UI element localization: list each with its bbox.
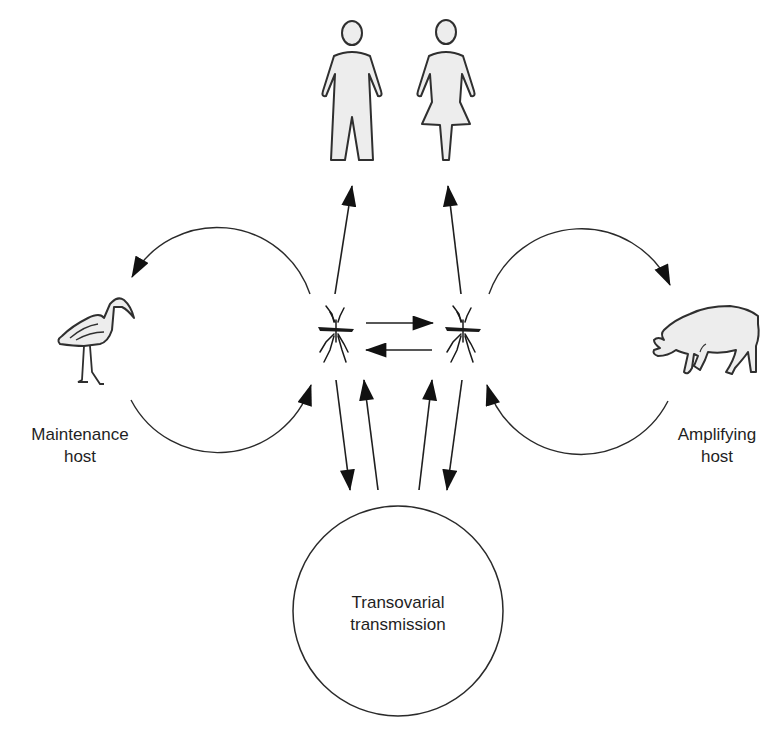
pig-icon (654, 306, 759, 374)
arrow-vector-left-to-transovarial (336, 380, 350, 490)
transovarial-label-line2: transmission (350, 615, 445, 634)
maintenance-host-label-line2: host (64, 447, 96, 466)
transovarial-label-line1: Transovarial (352, 593, 445, 612)
wading-bird-icon (58, 298, 134, 384)
amplifying-host-label-line2: host (701, 447, 733, 466)
arrow-vector-to-human-male (335, 186, 352, 294)
arrow-vector-to-human-female (448, 186, 461, 294)
human-female-icon (417, 20, 474, 160)
cycle-arc-vector-to-maintenance-host (132, 227, 310, 294)
transovarial-transmission-node: Transovarial transmission (293, 506, 503, 716)
cycle-arc-amplifying-host-to-vector (487, 385, 668, 454)
mosquito-icon (445, 306, 481, 362)
amplifying-host-label-line1: Amplifying (678, 425, 756, 444)
arrow-transovarial-to-vector-right (419, 380, 432, 490)
human-male-icon (322, 21, 381, 160)
arrow-transovarial-to-vector-left (364, 380, 378, 490)
cycle-arc-vector-to-amplifying-host (489, 229, 670, 294)
cycle-arc-maintenance-host-to-vector (131, 385, 311, 453)
arrow-vector-right-to-transovarial (447, 380, 462, 490)
mosquito-icon (318, 306, 354, 362)
transmission-cycle-diagram: Maintenance host Amplifying host Transov… (0, 0, 781, 743)
maintenance-host-label-line1: Maintenance (31, 425, 128, 444)
